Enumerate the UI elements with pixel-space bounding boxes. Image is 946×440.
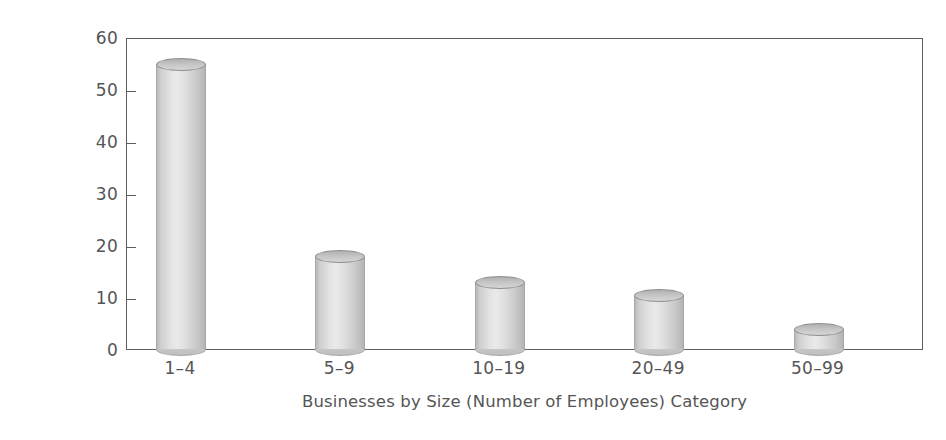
y-axis-tick-labels: 6050403020100 xyxy=(78,0,118,440)
x-axis-tick-label: 20–49 xyxy=(632,358,685,378)
bar-body xyxy=(475,283,525,349)
y-axis-tick-mark xyxy=(127,143,136,144)
bar-body xyxy=(156,64,206,349)
bar xyxy=(794,323,844,349)
bar xyxy=(475,276,525,349)
bar xyxy=(315,250,365,349)
bar-top-ellipse xyxy=(634,289,684,302)
x-axis-tick-label: 5–9 xyxy=(324,358,355,378)
x-axis-tick-label: 50–99 xyxy=(791,358,844,378)
bar-top-ellipse xyxy=(794,323,844,336)
x-axis-tick-label: 10–19 xyxy=(472,358,525,378)
bar-body xyxy=(315,257,365,349)
y-axis-tick-label: 50 xyxy=(80,80,118,100)
bar-top-ellipse xyxy=(156,58,206,71)
x-axis-title: Businesses by Size (Number of Employees)… xyxy=(126,392,923,411)
x-axis-tick-labels: 1–45–910–1920–4950–99 xyxy=(126,358,923,384)
bar-body xyxy=(634,296,684,349)
chart-figure: Percentage of All Small Business 6050403… xyxy=(0,0,946,440)
y-axis-tick-label: 0 xyxy=(80,340,118,360)
y-axis-tick-mark xyxy=(127,299,136,300)
bar-top-ellipse xyxy=(315,250,365,263)
y-axis-tick-label: 60 xyxy=(80,28,118,48)
bar xyxy=(634,289,684,349)
y-axis-tick-label: 30 xyxy=(80,184,118,204)
y-axis-tick-mark xyxy=(127,195,136,196)
plot-area xyxy=(126,38,923,350)
bar xyxy=(156,58,206,349)
y-axis-tick-label: 20 xyxy=(80,236,118,256)
bar-top-ellipse xyxy=(475,276,525,289)
y-axis-tick-label: 40 xyxy=(80,132,118,152)
y-axis-tick-mark xyxy=(127,91,136,92)
x-axis-tick-label: 1–4 xyxy=(164,358,195,378)
y-axis-tick-mark xyxy=(127,247,136,248)
y-axis-tick-label: 10 xyxy=(80,288,118,308)
